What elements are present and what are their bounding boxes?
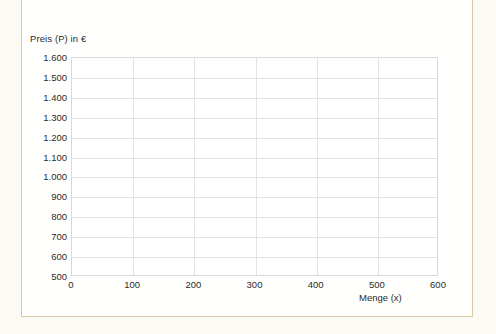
y-tick-label: 1.500	[43, 71, 67, 82]
y-tick-label: 1.200	[43, 131, 67, 142]
x-tick-label: 0	[68, 279, 73, 290]
y-tick-label: 700	[51, 231, 67, 242]
gridline-horizontal	[72, 98, 437, 99]
document-panel: Preis (P) in € 1.6001.5001.4001.3001.200…	[21, 0, 473, 317]
gridline-vertical	[256, 58, 257, 275]
y-axis-title: Preis (P) in €	[30, 33, 86, 44]
x-tick-label: 300	[247, 279, 263, 290]
gridline-horizontal	[72, 78, 437, 79]
y-tick-label: 1.300	[43, 111, 67, 122]
y-tick-label: 1.100	[43, 151, 67, 162]
gridline-horizontal	[72, 257, 437, 258]
x-tick-label: 400	[308, 279, 324, 290]
gridline-vertical	[317, 58, 318, 275]
gridline-horizontal	[72, 217, 437, 218]
x-tick-label: 200	[185, 279, 201, 290]
x-axis-tick-labels: 0100200300400500600	[71, 279, 438, 293]
header-strip	[22, 0, 472, 24]
x-tick-label: 500	[369, 279, 385, 290]
gridline-vertical	[133, 58, 134, 275]
x-tick-label: 600	[430, 279, 446, 290]
gridline-vertical	[194, 58, 195, 275]
gridline-horizontal	[72, 158, 437, 159]
plot-area	[71, 57, 438, 276]
y-tick-label: 1.600	[43, 52, 67, 63]
gridline-horizontal	[72, 197, 437, 198]
y-tick-label: 600	[51, 251, 67, 262]
y-axis-tick-labels: 1.6001.5001.4001.3001.2001.1001.00090080…	[22, 57, 67, 276]
gridline-horizontal	[72, 237, 437, 238]
chart-figure: Preis (P) in € 1.6001.5001.4001.3001.200…	[22, 24, 472, 316]
y-tick-label: 1.000	[43, 171, 67, 182]
y-tick-label: 1.400	[43, 91, 67, 102]
gridline-horizontal	[72, 177, 437, 178]
x-axis-title: Menge (x)	[359, 292, 402, 303]
x-tick-label: 100	[124, 279, 140, 290]
y-tick-label: 500	[51, 271, 67, 282]
y-tick-label: 800	[51, 211, 67, 222]
gridline-horizontal	[72, 118, 437, 119]
gridline-vertical	[378, 58, 379, 275]
gridline-horizontal	[72, 138, 437, 139]
y-tick-label: 900	[51, 191, 67, 202]
